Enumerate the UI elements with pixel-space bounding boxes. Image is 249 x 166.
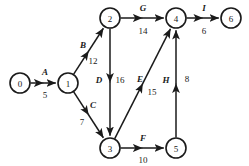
edge-weight-g: 14 (139, 26, 149, 36)
edge-label-g: G (140, 3, 147, 13)
edge-weight-c: 7 (80, 117, 85, 127)
node-label-5: 5 (174, 144, 179, 154)
edge-label-i: I (201, 3, 206, 13)
node-label-6: 6 (229, 14, 234, 24)
node-label-0: 0 (18, 79, 23, 89)
edge-weight-f: 10 (139, 155, 149, 165)
edge-weight-d: 16 (116, 75, 126, 85)
edge-label-d: D (95, 75, 103, 85)
edge-label-h: H (161, 75, 170, 85)
edge-weight-e: 15 (148, 87, 158, 97)
node-label-1: 1 (66, 79, 71, 89)
node-label-4: 4 (174, 14, 179, 24)
edge-weight-b: 12 (89, 56, 98, 66)
network-diagram-svg: 0123456 A5B12C7D16E15F10G14H8I6 (0, 0, 249, 166)
edge-label-c: C (90, 100, 97, 110)
edge-weight-a: 5 (43, 90, 48, 100)
node-label-3: 3 (108, 144, 113, 154)
node-label-2: 2 (108, 14, 113, 24)
edge-label-b: B (79, 40, 86, 50)
edge-label-a: A (41, 67, 48, 77)
edge-weight-h: 8 (185, 74, 190, 84)
edge-label-e: E (136, 74, 143, 84)
edge-label-f: F (139, 133, 146, 143)
edge-weight-i: 6 (202, 26, 207, 36)
network-diagram-canvas: 0123456 A5B12C7D16E15F10G14H8I6 (0, 0, 249, 166)
